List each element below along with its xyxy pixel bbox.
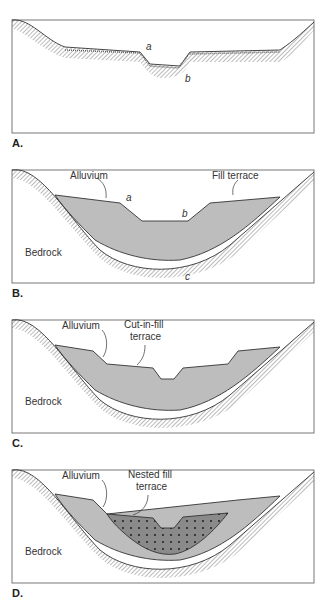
panel-a: a b A. — [12, 20, 314, 149]
nested-fill-label-line2: terrace — [136, 481, 168, 492]
nested-fill-label-line1: Nested fill — [128, 469, 172, 480]
panel-label-c: C. — [12, 437, 23, 449]
bedrock-label: Bedrock — [25, 247, 63, 258]
cut-in-fill-label-line1: Cut-in-fill — [124, 319, 163, 330]
annotation-a: a — [126, 192, 132, 203]
alluvium-label: Alluvium — [62, 320, 100, 331]
annotation-b: b — [185, 73, 191, 84]
bedrock-label: Bedrock — [25, 396, 63, 407]
panel-d: Alluvium Nested fill terrace Bedrock D. — [12, 469, 314, 599]
annotation-b: b — [182, 208, 188, 219]
annotation-c: c — [185, 271, 190, 282]
terrace-diagram: a b A. Alluvium Fill terrace a b Bedrock… — [0, 0, 324, 601]
panel-b: Alluvium Fill terrace a b Bedrock c B. — [12, 170, 314, 299]
fill-terrace-label: Fill terrace — [212, 170, 259, 181]
panel-label-b: B. — [12, 287, 23, 299]
panel-c: Alluvium Cut-in-fill terrace Bedrock C. — [12, 319, 314, 449]
alluvium-label: Alluvium — [70, 170, 108, 181]
panel-label-a: A. — [12, 137, 23, 149]
bedrock-label: Bedrock — [25, 546, 63, 557]
annotation-a: a — [146, 41, 152, 52]
panel-label-d: D. — [12, 587, 23, 599]
alluvium-label: Alluvium — [62, 470, 100, 481]
cut-in-fill-label-line2: terrace — [130, 331, 162, 342]
